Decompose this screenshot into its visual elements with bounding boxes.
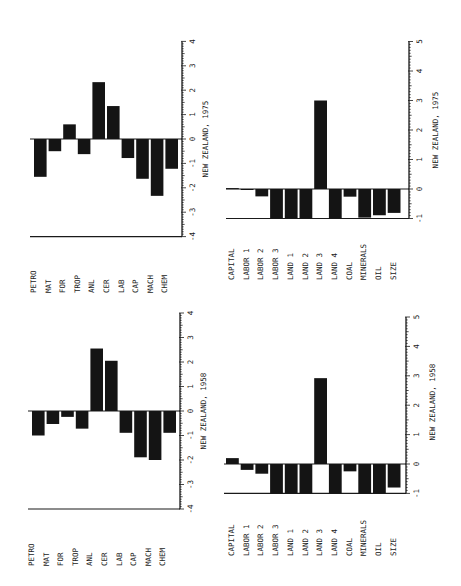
tick-label: 2: [412, 403, 421, 408]
category-label: CAP: [131, 279, 140, 293]
bar-anl: [92, 82, 105, 139]
category-label: LAB: [117, 279, 126, 293]
category-label: CHEM: [158, 547, 167, 566]
bar-coal: [344, 189, 357, 197]
bar-coal: [344, 464, 357, 471]
bar-labor-3: [270, 189, 283, 219]
category-label: ANL: [85, 552, 94, 566]
category-label: MACH: [146, 274, 155, 293]
category-label: LAND 3: [315, 529, 324, 556]
bar-trop: [78, 139, 91, 154]
bar-anl: [90, 349, 103, 411]
bar-labor-3: [270, 464, 283, 493]
category-label: LAND 2: [301, 253, 310, 280]
category-label: PETRO: [29, 270, 38, 293]
chart-panel-top-left: -4-3-2-101234NEW ZEALAND, 1975PETROMATFO…: [29, 39, 210, 293]
category-label: LAB: [115, 552, 124, 566]
bar-for: [61, 411, 74, 417]
tick-label: 4: [188, 39, 197, 44]
tick-label: 3: [412, 374, 421, 379]
bar-lab: [120, 411, 133, 433]
category-label: MAT: [44, 279, 53, 293]
tick-label: -1: [415, 214, 424, 223]
panel-title: NEW ZEALAND, 1975: [201, 101, 210, 178]
category-label: CHEM: [160, 274, 169, 293]
category-label: MACH: [144, 547, 153, 566]
category-label: CAP: [129, 552, 138, 566]
category-label: FOR: [56, 552, 65, 566]
tick-label: 1: [415, 157, 424, 162]
category-label: COAL: [345, 261, 354, 280]
bar-petro: [34, 139, 47, 177]
bar-cer: [107, 106, 120, 139]
category-label: LAND 1: [286, 253, 295, 280]
bar-mat: [49, 139, 62, 151]
category-label: LAND 4: [330, 252, 339, 280]
tick-label: 1: [412, 432, 421, 437]
category-label: LAND 1: [286, 529, 295, 556]
bar-labor-2: [255, 464, 268, 474]
category-label: LAND 4: [330, 528, 339, 556]
bar-land-3: [314, 378, 327, 464]
bar-labor-1: [241, 189, 254, 190]
category-label: LAND 3: [315, 253, 324, 280]
tick-label: -3: [186, 480, 195, 489]
tick-label: 0: [415, 186, 424, 191]
category-label: TROP: [71, 547, 80, 566]
tick-label: -2: [188, 183, 197, 192]
chart-panel-bottom-right: -1012345NEW ZEALAND, 1958CAPITALLABOR 1L…: [224, 315, 437, 556]
tick-label: 4: [412, 344, 421, 349]
tick-label: 0: [412, 461, 421, 466]
bar-mach: [151, 139, 164, 196]
bar-mat: [47, 411, 60, 424]
category-label: CER: [100, 552, 109, 566]
bar-minerals: [358, 464, 371, 493]
tick-label: -4: [186, 504, 195, 514]
bar-land-3: [314, 101, 327, 190]
chart-panel-top-right: -1012345NEW ZEALAND, 1975CAPITALLABOR 1L…: [226, 39, 440, 280]
tick-label: 5: [415, 39, 424, 44]
tick-label: 2: [188, 88, 197, 93]
category-label: SIZE: [389, 537, 398, 556]
bar-for: [63, 124, 76, 139]
category-label: CAPITAL: [227, 524, 236, 556]
tick-label: 4: [415, 68, 424, 73]
bar-land-1: [285, 189, 298, 219]
bar-trop: [76, 411, 89, 429]
category-label: SIZE: [389, 261, 398, 280]
bar-chem: [163, 411, 176, 433]
category-label: LABOR 1: [242, 524, 251, 556]
bar-oil: [373, 464, 386, 493]
bar-land-2: [300, 189, 313, 219]
bar-capital: [226, 188, 239, 189]
tick-label: 3: [415, 98, 424, 103]
tick-label: 0: [186, 408, 195, 413]
tick-label: -4: [188, 232, 197, 242]
category-label: TROP: [73, 274, 82, 293]
bar-cer: [105, 361, 118, 411]
bar-land-2: [300, 464, 313, 493]
bar-land-4: [329, 464, 342, 493]
bar-chem: [165, 139, 178, 169]
tick-label: 3: [188, 64, 197, 69]
panel-title: NEW ZEALAND, 1975: [431, 92, 440, 169]
tick-label: 1: [186, 384, 195, 389]
tick-label: -2: [186, 455, 195, 464]
category-label: FOR: [58, 279, 67, 293]
tick-label: -1: [188, 159, 197, 168]
category-label: LABOR 2: [256, 524, 265, 556]
tick-label: 2: [415, 128, 424, 133]
category-label: ANL: [87, 279, 96, 293]
bar-minerals: [358, 189, 371, 218]
tick-label: -1: [186, 431, 195, 440]
bar-oil: [373, 189, 386, 215]
tick-label: 1: [188, 112, 197, 117]
category-label: CER: [102, 279, 111, 293]
tick-label: 3: [186, 335, 195, 340]
bar-petro: [32, 411, 45, 436]
bar-size: [388, 464, 401, 488]
bar-lab: [122, 139, 135, 158]
panel-title: NEW ZEALAND, 1958: [199, 372, 208, 449]
category-label: CAPITAL: [227, 248, 236, 280]
category-label: MINERALS: [359, 243, 368, 280]
